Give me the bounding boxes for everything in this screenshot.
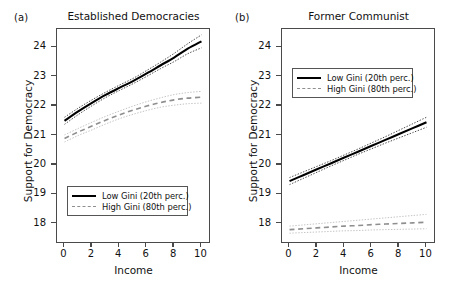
x-tick-label: 0 (53, 249, 75, 259)
solid-line-icon (296, 73, 322, 83)
legend-label: Low Gini (20th perc.) (102, 191, 189, 201)
x-tick-mark (425, 242, 426, 247)
x-tick-mark (200, 242, 201, 247)
y-tick-label: 18 (247, 218, 271, 228)
y-tick-mark (51, 193, 56, 194)
x-axis-title-b: Income (281, 264, 436, 276)
x-tick-label: 6 (360, 249, 382, 259)
x-tick-mark (370, 242, 371, 247)
y-tick-mark (51, 104, 56, 105)
y-tick-mark (276, 193, 281, 194)
x-tick-label: 8 (162, 249, 184, 259)
legend-label: Low Gini (20th perc.) (327, 73, 414, 83)
y-tick-label: 22 (247, 100, 271, 110)
ci-lower-band (65, 48, 202, 124)
legend-row: High Gini (80th perc.) (71, 201, 183, 212)
legend-b: Low Gini (20th perc.) High Gini (80th pe… (292, 68, 413, 98)
panel-title-a: Established Democracies (56, 10, 211, 22)
y-tick-label: 21 (247, 130, 271, 140)
legend-label: High Gini (80th perc.) (102, 202, 191, 212)
high-gini-line (65, 97, 202, 138)
y-tick-mark (276, 46, 281, 47)
y-tick-mark (51, 163, 56, 164)
low-gini-line (290, 122, 427, 181)
solid-line-icon (71, 191, 97, 201)
x-tick-mark (343, 242, 344, 247)
ci-lower-band (290, 229, 427, 233)
y-tick-mark (51, 134, 56, 135)
legend-label: High Gini (80th perc.) (327, 84, 416, 94)
x-tick-mark (145, 242, 146, 247)
y-tick-label: 20 (247, 159, 271, 169)
x-tick-label: 10 (189, 249, 211, 259)
ci-lower-band (65, 103, 202, 142)
panel-label-a: (a) (14, 12, 28, 23)
y-tick-mark (276, 134, 281, 135)
x-axis-title-a: Income (56, 264, 211, 276)
x-tick-label: 6 (135, 249, 157, 259)
y-tick-label: 24 (247, 41, 271, 51)
y-tick-label: 24 (22, 41, 46, 51)
x-tick-mark (63, 242, 64, 247)
panel-label-b: (b) (235, 12, 249, 23)
y-tick-mark (276, 75, 281, 76)
ci-upper-band (290, 117, 427, 177)
x-tick-mark (90, 242, 91, 247)
figure-root: (a) Established Democracies Support for … (0, 0, 451, 290)
x-tick-mark (118, 242, 119, 247)
y-tick-mark (276, 104, 281, 105)
panel-established-democracies: (a) Established Democracies Support for … (0, 0, 226, 290)
y-tick-label: 22 (22, 100, 46, 110)
legend-row: Low Gini (20th perc.) (71, 190, 183, 201)
ci-upper-band (65, 35, 202, 117)
y-tick-label: 20 (22, 159, 46, 169)
ci-upper-band (65, 91, 202, 135)
x-tick-mark (397, 242, 398, 247)
y-tick-mark (276, 222, 281, 223)
y-tick-mark (51, 75, 56, 76)
plot-curves-b (282, 29, 434, 242)
ci-lower-band (290, 127, 427, 184)
x-tick-mark (315, 242, 316, 247)
ci-upper-band (290, 214, 427, 226)
legend-a: Low Gini (20th perc.) High Gini (80th pe… (67, 186, 188, 216)
y-tick-label: 19 (22, 188, 46, 198)
x-tick-label: 2 (80, 249, 102, 259)
y-tick-mark (276, 163, 281, 164)
x-tick-label: 2 (305, 249, 327, 259)
legend-row: High Gini (80th perc.) (296, 83, 408, 94)
panel-former-communist: (b) Former Communist Support for Democra… (225, 0, 451, 290)
y-tick-label: 23 (22, 71, 46, 81)
legend-row: Low Gini (20th perc.) (296, 72, 408, 83)
x-tick-label: 0 (278, 249, 300, 259)
x-tick-label: 10 (414, 249, 436, 259)
y-tick-label: 21 (22, 130, 46, 140)
panel-title-b: Former Communist (281, 10, 436, 22)
y-tick-mark (51, 222, 56, 223)
y-tick-mark (51, 46, 56, 47)
y-tick-label: 19 (247, 188, 271, 198)
low-gini-line (65, 41, 202, 120)
x-tick-label: 8 (387, 249, 409, 259)
plot-area-b (281, 28, 435, 243)
x-tick-mark (172, 242, 173, 247)
x-tick-mark (288, 242, 289, 247)
x-tick-label: 4 (107, 249, 129, 259)
y-tick-label: 18 (22, 218, 46, 228)
dashed-line-icon (296, 84, 322, 94)
x-tick-label: 4 (332, 249, 354, 259)
high-gini-line (290, 222, 427, 229)
dashed-line-icon (71, 202, 97, 212)
y-tick-label: 23 (247, 71, 271, 81)
